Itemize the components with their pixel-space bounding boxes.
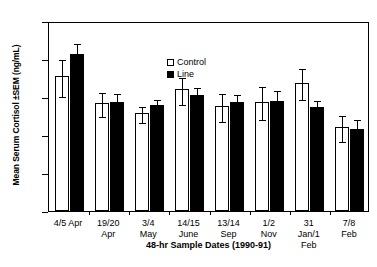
bar-group [210,23,250,211]
x-axis-tick-mark [290,211,291,215]
bar-control [175,89,189,211]
error-bar-control [182,78,183,105]
x-axis-tick-mark [169,211,170,215]
error-bar-line [197,88,198,106]
bar-line [270,101,284,211]
bar-group [89,23,129,211]
error-bar-control-cap [99,117,106,118]
error-bar-line-cap [354,120,361,121]
bar-line [150,105,164,211]
legend-label-line: Line [177,68,194,80]
error-bar-control-cap [219,94,226,95]
error-bar-control [142,107,143,122]
error-bar-control-cap [59,97,66,98]
bar-line [310,107,324,211]
bar-line [110,102,124,211]
error-bar-control-cap [219,122,226,123]
error-bar-line-cap [234,112,241,113]
error-bar-line-cap [354,142,361,143]
x-axis-tick-mark [129,211,130,215]
error-bar-line-cap [74,69,81,70]
legend-item-control: Control [167,56,206,68]
bar-line [70,54,84,211]
error-bar-control-cap [179,105,186,106]
error-bar-control [302,69,303,99]
bar-control [295,83,309,211]
error-bar-control [222,94,223,121]
error-bar-control-cap [299,69,306,70]
error-bar-control [342,116,343,142]
error-bar-control-cap [259,87,266,88]
bar-group [169,23,209,211]
bar-control [135,113,149,211]
error-bar-control-cap [139,123,146,124]
x-axis-tick-label-line: 7/8 [319,218,377,229]
x-axis-tick-mark [89,211,90,215]
error-bar-control [102,93,103,117]
bar-group [250,23,290,211]
error-bar-line [277,91,278,114]
legend-item-line: Line [167,68,206,80]
bar-line [230,102,244,211]
bar-group [330,23,370,211]
error-bar-line-cap [314,101,321,102]
y-axis-title: Mean Serum Cortisol ±SEM (ng/mL) [11,15,21,215]
error-bar-control-cap [339,116,346,117]
x-axis-title: 48-hr Sample Dates (1990-91) [48,240,369,250]
error-bar-control [262,87,263,120]
error-bar-line-cap [154,115,161,116]
error-bar-line-cap [314,117,321,118]
bar-control [95,103,109,211]
error-bar-control-cap [259,120,266,121]
error-bar-line-cap [234,95,241,96]
x-axis-tick-mark [210,211,211,215]
error-bar-line [117,94,118,114]
error-bar-line-cap [74,44,81,45]
error-bar-line [357,120,358,141]
error-bar-line [77,44,78,70]
bar-group [290,23,330,211]
error-bar-line-cap [194,88,201,89]
x-axis-tick-mark [330,211,331,215]
error-bar-line [157,100,158,115]
error-bar-line-cap [274,91,281,92]
error-bar-line [237,95,238,112]
error-bar-control-cap [339,142,346,143]
legend-label-control: Control [177,56,206,68]
error-bar-line [317,101,318,118]
error-bar-control-cap [299,100,306,101]
legend-swatch-filled-square-icon [167,71,174,78]
error-bar-line-cap [274,114,281,115]
x-axis-tick-label-line: Feb [319,229,377,240]
x-axis-tick-label: 7/8Feb [319,218,377,240]
error-bar-line-cap [154,100,161,101]
error-bar-line-cap [114,94,121,95]
error-bar-control [62,60,63,96]
error-bar-control-cap [139,107,146,108]
error-bar-control-cap [99,93,106,94]
y-axis-tick-mark [42,212,48,213]
bar-line [190,95,204,211]
legend-swatch-open-square-icon [167,59,174,66]
error-bar-line-cap [194,106,201,107]
figure: Mean Serum Cortisol ±SEM (ng/mL) 0510152… [0,0,377,267]
error-bar-line-cap [114,113,121,114]
error-bar-control-cap [59,60,66,61]
chart-legend: Control Line [167,56,206,80]
x-axis-tick-mark [250,211,251,215]
bar-group [129,23,169,211]
plot-area: Control Line [48,22,369,212]
bar-group [49,23,89,211]
